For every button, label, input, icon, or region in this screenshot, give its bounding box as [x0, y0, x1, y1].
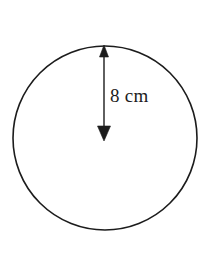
circle-radius-diagram: [0, 0, 208, 277]
radius-measurement-label: 8 cm: [110, 85, 149, 107]
figure-canvas: 8 cm: [0, 0, 208, 277]
